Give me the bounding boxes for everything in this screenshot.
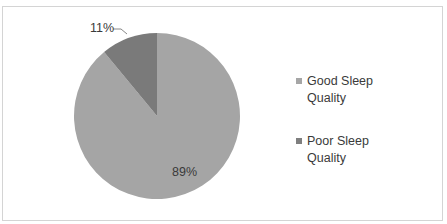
legend-label-line1: Poor Sleep xyxy=(307,133,417,150)
legend-label-line1: Good Sleep xyxy=(307,73,417,90)
data-label-poor-sleep: 11% xyxy=(90,22,114,35)
data-label-leader-line xyxy=(113,29,127,34)
legend-label-line2: Quality xyxy=(307,150,417,167)
chart-legend: Good Sleep Quality Poor Sleep Quality xyxy=(295,73,417,167)
data-label-good-sleep: 89% xyxy=(172,166,197,179)
legend-item-poor-sleep: Poor Sleep Quality xyxy=(295,133,417,167)
legend-swatch-good-sleep xyxy=(296,78,302,84)
legend-label-line2: Quality xyxy=(307,90,417,107)
legend-swatch-poor-sleep xyxy=(296,138,302,144)
legend-item-good-sleep: Good Sleep Quality xyxy=(295,73,417,107)
